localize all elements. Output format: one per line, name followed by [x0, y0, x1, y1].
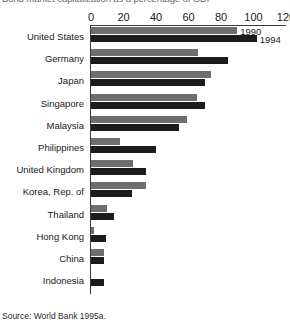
source-note: Source: World Bank 1995a. [2, 311, 106, 321]
chart-row: China [0, 249, 290, 264]
bar-1990-korea-rep-of [91, 182, 146, 189]
x-tick-60: 60 [182, 11, 194, 23]
category-label-china: China [59, 253, 84, 264]
chart-row: Malaysia [0, 116, 290, 131]
category-label-singapore: Singapore [41, 98, 84, 109]
bar-1994-japan [91, 79, 205, 86]
x-tick-40: 40 [150, 11, 162, 23]
x-axis-tick-labels: 020406080100120 [0, 11, 290, 25]
x-tick-80: 80 [215, 11, 227, 23]
page-title: Bond market capitalization as a percenta… [2, 0, 213, 4]
chart-row: Hong Kong [0, 227, 290, 242]
bar-1990-china [91, 249, 104, 256]
category-label-korea-rep-of: Korea, Rep. of [23, 186, 84, 197]
category-label-united-states: United States [27, 31, 84, 42]
bar-1994-korea-rep-of [91, 190, 132, 197]
bar-1994-indonesia [91, 279, 104, 286]
chart-row: Indonesia [0, 271, 290, 286]
chart-row: Korea, Rep. of [0, 182, 290, 197]
bar-1990-singapore [91, 94, 197, 101]
x-tick-0: 0 [88, 11, 94, 23]
category-label-hong-kong: Hong Kong [36, 231, 84, 242]
bar-1990-germany [91, 49, 198, 56]
bar-1994-malaysia [91, 124, 179, 131]
chart-row: Singapore [0, 94, 290, 109]
chart-title-clipped: Bond market capitalization as a percenta… [0, 0, 290, 7]
category-label-philippines: Philippines [38, 142, 84, 153]
x-tick-100: 100 [244, 11, 262, 23]
category-label-germany: Germany [45, 53, 84, 64]
chart-row: Germany [0, 49, 290, 64]
bar-1990-philippines [91, 138, 120, 145]
category-label-thailand: Thailand [48, 209, 84, 220]
legend-label-1994: 1994 [260, 34, 281, 45]
bar-1994-philippines [91, 146, 156, 153]
bar-1994-united-kingdom [91, 168, 146, 175]
bar-1990-united-kingdom [91, 160, 133, 167]
bar-1994-germany [91, 57, 228, 64]
category-label-japan: Japan [58, 75, 84, 86]
category-label-indonesia: Indonesia [43, 275, 84, 286]
bar-1994-hong-kong [91, 235, 106, 242]
bar-1994-china [91, 257, 104, 264]
bar-chart-figure: Bond market capitalization as a percenta… [0, 0, 290, 327]
legend-label-1990: 1990 [240, 26, 261, 37]
chart-row: Philippines [0, 138, 290, 153]
bar-1990-hong-kong [91, 227, 94, 234]
category-label-malaysia: Malaysia [47, 120, 85, 131]
chart-row: United Kingdom [0, 160, 290, 175]
x-tick-20: 20 [117, 11, 129, 23]
chart-row: Japan [0, 71, 290, 86]
bar-1990-united-states [91, 27, 237, 34]
x-tick-120: 120 [277, 11, 290, 23]
bar-1990-thailand [91, 205, 107, 212]
bar-1990-malaysia [91, 116, 187, 123]
chart-row: Thailand [0, 205, 290, 220]
bar-1994-thailand [91, 213, 114, 220]
bar-1990-japan [91, 71, 211, 78]
category-label-united-kingdom: United Kingdom [16, 164, 84, 175]
bar-1994-united-states [91, 35, 257, 42]
bar-1994-singapore [91, 102, 205, 109]
